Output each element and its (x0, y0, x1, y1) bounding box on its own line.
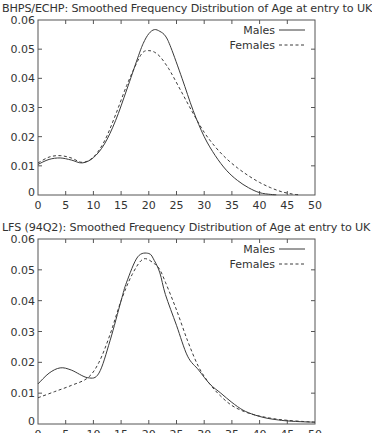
x-tick-label: 50 (308, 428, 322, 433)
x-tick-label: 10 (86, 428, 100, 433)
x-tick-label: 5 (62, 428, 69, 433)
legend-label-males: Males (243, 243, 275, 256)
x-tick-label: 45 (280, 428, 294, 433)
legend-label-females: Females (229, 258, 275, 271)
x-tick-label: 15 (114, 428, 128, 433)
y-tick-label: 0.03 (11, 326, 36, 339)
x-tick-label: 20 (142, 428, 156, 433)
y-tick-label: 0 (28, 415, 35, 428)
y-tick-label: 0.02 (11, 356, 36, 369)
y-tick-label: 0.05 (11, 264, 36, 277)
series-line-females (38, 259, 315, 423)
y-tick-label: 0.06 (11, 233, 36, 246)
series-line-males (38, 253, 315, 422)
x-tick-label: 25 (170, 428, 184, 433)
y-tick-label: 0.04 (11, 295, 36, 308)
x-tick-label: 35 (225, 428, 239, 433)
x-tick-label: 30 (197, 428, 211, 433)
x-tick-label: 40 (253, 428, 267, 433)
x-tick-label: 0 (35, 428, 42, 433)
y-tick-label: 0.01 (11, 387, 36, 400)
